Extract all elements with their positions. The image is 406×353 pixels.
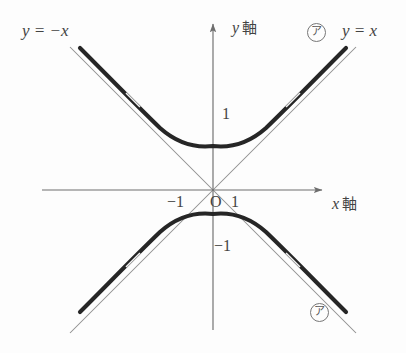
origin-label: O <box>210 194 222 210</box>
graph-canvas <box>0 0 406 353</box>
y-axis-label-kanji: 軸 <box>242 19 257 37</box>
hyperbola-figure: y軸 x軸 y = −x y = x ア ア 1 −1 −1 1 O <box>0 0 406 353</box>
x-axis-label: x軸 <box>332 196 357 212</box>
tick-label-x-positive-one: 1 <box>231 194 239 210</box>
tick-label-y-negative-one: −1 <box>214 238 231 254</box>
circled-a-icon: ア <box>307 23 326 42</box>
curve-badge-bottom: ア <box>310 303 329 322</box>
tick-label-x-negative-one: −1 <box>167 194 184 210</box>
circled-a-icon: ア <box>310 303 329 322</box>
asymptote-right-label: y = x <box>342 22 377 39</box>
curve-badge-top: ア <box>307 23 326 42</box>
x-axis-label-symbol: x <box>332 195 339 212</box>
x-axis-label-kanji: 軸 <box>342 195 357 213</box>
asymptote-left-label: y = −x <box>22 22 69 39</box>
tick-label-y-positive-one: 1 <box>222 106 230 122</box>
y-axis-label: y軸 <box>232 20 257 36</box>
y-axis-label-symbol: y <box>232 19 239 36</box>
